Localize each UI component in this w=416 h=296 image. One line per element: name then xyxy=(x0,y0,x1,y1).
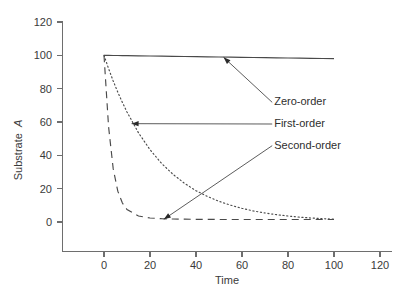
y-tick-label: 40 xyxy=(40,149,52,161)
y-tick-label: 100 xyxy=(34,49,52,61)
annotation-label-zero-order: Zero-order xyxy=(274,95,326,107)
y-tick-label: 80 xyxy=(40,83,52,95)
x-axis-ticks xyxy=(104,252,380,258)
data-series-group xyxy=(104,55,334,219)
series-line-second-order xyxy=(104,55,334,219)
series-line-zero-order xyxy=(104,55,334,58)
y-axis-title: Substrate A xyxy=(12,120,24,181)
y-axis-tick-labels: 020406080100120 xyxy=(34,16,52,228)
annotation-label-first-order: First-order xyxy=(274,117,325,129)
annotation-group: Zero-orderFirst-orderSecond-order xyxy=(132,55,342,221)
x-tick-label: 40 xyxy=(190,259,202,271)
x-tick-label: 60 xyxy=(236,259,248,271)
x-tick-label: 80 xyxy=(282,259,294,271)
x-tick-label: 0 xyxy=(101,259,107,271)
axes xyxy=(62,22,392,252)
y-tick-label: 20 xyxy=(40,183,52,195)
x-tick-label: 120 xyxy=(371,259,389,271)
x-axis-tick-labels: 020406080100120 xyxy=(101,259,389,271)
svg-text:Substrate A: Substrate A xyxy=(12,120,24,181)
y-axis-ticks xyxy=(57,22,63,222)
annotation-leader-second-order xyxy=(164,146,272,220)
annotation-arrow-second-order xyxy=(162,213,171,221)
series-line-first-order xyxy=(104,55,334,219)
y-tick-label: 120 xyxy=(34,16,52,28)
x-axis-title: Time xyxy=(215,274,239,286)
chart-canvas: 020406080100120 020406080100120 Zero-ord… xyxy=(0,0,416,296)
annotation-leader-zero-order xyxy=(224,57,273,102)
annotation-label-second-order: Second-order xyxy=(274,139,341,151)
y-tick-label: 60 xyxy=(40,116,52,128)
x-tick-label: 100 xyxy=(325,259,343,271)
y-tick-label: 0 xyxy=(46,216,52,228)
x-tick-label: 20 xyxy=(144,259,156,271)
y-axis-title-italic: A xyxy=(12,120,24,128)
chart-figure: 020406080100120 020406080100120 Zero-ord… xyxy=(0,0,416,296)
y-axis-title-text: Substrate xyxy=(12,133,24,180)
